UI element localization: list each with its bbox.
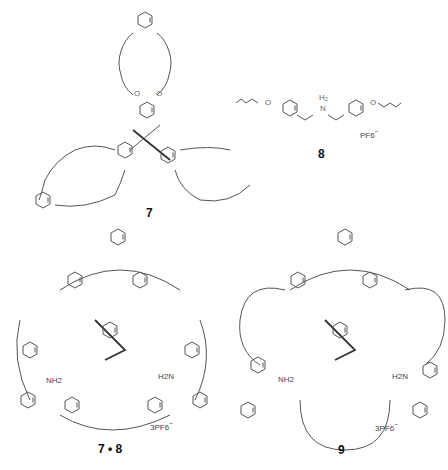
svg-text:H₂: H₂	[319, 93, 328, 102]
compound-7-8-counterion: 3PF6−	[150, 420, 173, 432]
compound-9-structure	[240, 229, 445, 450]
chemical-structures-svg: OO O N H₂ O	[0, 0, 448, 470]
compound-7-structure: OO	[36, 12, 250, 208]
svg-text:O: O	[370, 98, 376, 107]
svg-text:O: O	[156, 89, 162, 98]
compound-7-label: 7	[146, 206, 153, 220]
compound-7-8-ammonium-left: NH2	[46, 376, 62, 385]
compound-8-label: 8	[318, 147, 325, 161]
compound-9-ammonium-left: NH2	[278, 375, 294, 384]
compound-9-counterion: 3PF6−	[375, 421, 398, 433]
svg-text:O: O	[265, 98, 271, 107]
compound-7-8-label: 7 • 8	[98, 442, 122, 456]
compound-7-8-ammonium-right: H2N	[158, 372, 174, 381]
compound-9-ammonium-right: H2N	[392, 372, 408, 381]
compound-8-structure: O N H₂ O	[236, 93, 401, 120]
compound-7-8-structure	[17, 229, 207, 430]
compound-8-counterion: PF6−	[360, 128, 379, 140]
svg-text:O: O	[134, 89, 140, 98]
compound-9-label: 9	[338, 443, 345, 457]
svg-text:N: N	[320, 104, 326, 113]
